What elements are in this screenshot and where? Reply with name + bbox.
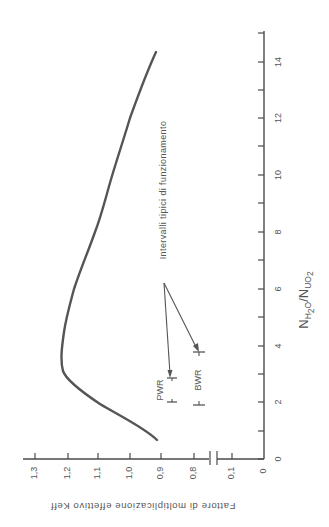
y-tick-0: 0	[258, 468, 268, 473]
y-tick-0.1: 0,1	[226, 467, 236, 480]
x-axis-title: NH2O/NUO2	[296, 271, 316, 329]
y-tick-0.8: 0,8	[188, 467, 198, 480]
annotation-text: Intervalli tipici di funzionamento	[158, 121, 168, 260]
annotation-arrows	[164, 283, 199, 378]
pwr-label: PWR	[155, 379, 165, 400]
pwr-gap	[169, 381, 175, 399]
y-tick-labels: 1,3 1,2 1,1 1,0 0,9 0,8 0,1 0	[29, 467, 268, 480]
x-tick-12: 12	[273, 113, 283, 123]
x-tick-labels: 0 2 4 6 8 10 12 14	[273, 57, 283, 462]
svg-text:NH2O/NUO2: NH2O/NUO2	[296, 271, 316, 329]
y-axis-title: Fattore di moltiplicazione effettivo Kef…	[51, 501, 236, 512]
x-tick-6: 6	[273, 286, 283, 291]
x-tick-2: 2	[273, 399, 283, 404]
y-tick-1.3: 1,3	[29, 467, 39, 480]
x-tick-14: 14	[273, 57, 283, 67]
y-tick-1.1: 1,1	[92, 467, 102, 480]
x-tick-8: 8	[273, 229, 283, 234]
bwr-label: BWR	[193, 369, 203, 390]
y-tick-1.0: 1,0	[124, 467, 134, 480]
x-tick-4: 4	[273, 343, 283, 348]
x-axis-ticks	[258, 33, 264, 459]
y-tick-0.9: 0,9	[155, 467, 165, 480]
y-axis-ticks	[35, 453, 232, 459]
keff-curve	[61, 52, 157, 440]
y-tick-1.2: 1,2	[62, 467, 72, 480]
x-tick-0: 0	[273, 456, 283, 461]
keff-chart: 0 2 4 6 8 10 12 14 NH2O/NUO2 1,3 1,2 1,1…	[0, 0, 329, 527]
x-tick-10: 10	[273, 170, 283, 180]
